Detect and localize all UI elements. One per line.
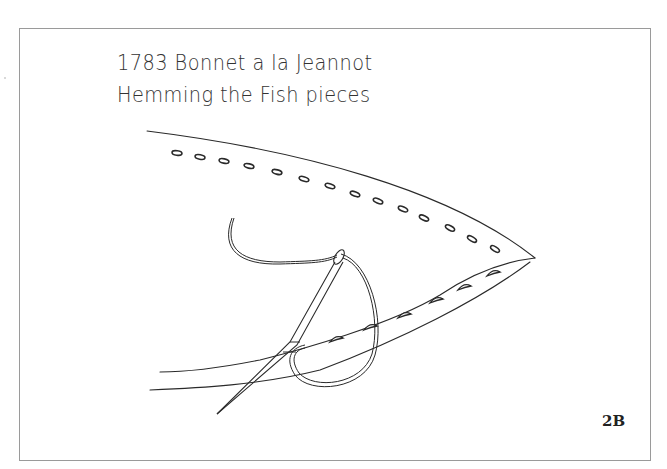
running-stitch-holes: [172, 150, 501, 253]
fabric-bottom-edge: [150, 262, 530, 390]
needle: [217, 248, 346, 414]
fabric-fold-edge: [160, 258, 535, 372]
fabric-top-edge: [147, 131, 535, 258]
figure-label: 2B: [602, 412, 625, 430]
hemming-illustration: [0, 0, 667, 469]
